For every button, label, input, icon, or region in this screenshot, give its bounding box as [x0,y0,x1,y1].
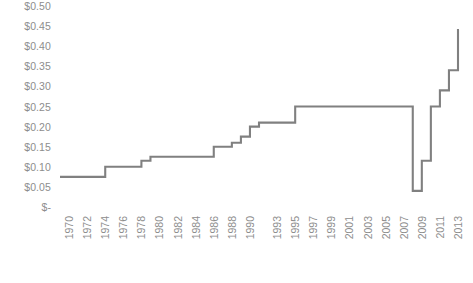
y-tick-label: $0.50 [24,1,51,12]
x-tick-label: 1999 [326,216,337,239]
x-tick-label: 1970 [64,216,75,239]
x-tick-label: 1980 [154,216,165,239]
plot-area [57,4,461,215]
x-tick-label: 1988 [227,216,238,239]
y-tick-label: $0.15 [24,141,51,152]
y-tick-label: $0.25 [24,101,51,112]
x-tick-label: 2009 [417,216,428,239]
x-tick-label: 1993 [272,216,283,239]
x-tick-label: 1972 [82,216,93,239]
x-tick-label: 2007 [399,216,410,239]
x-axis: 1970197219741976197819801982198419861988… [57,216,461,276]
x-tick-label: 2003 [363,216,374,239]
x-tick-label: 2011 [435,216,446,239]
x-tick-label: 1974 [100,216,111,239]
x-tick-label: 1986 [209,216,220,239]
x-tick-label: 1978 [136,216,147,239]
y-tick-label: $0.45 [24,21,51,32]
y-tick-label: $0.05 [24,182,51,193]
x-tick-label: 2013 [453,216,464,239]
x-tick-label: 1990 [245,216,256,239]
y-tick-label: $0.30 [24,81,51,92]
y-tick-label: $0.20 [24,121,51,132]
data-line-svg [57,4,461,215]
x-tick-label: 1982 [173,216,184,239]
y-tick-label: $0.35 [24,61,51,72]
y-tick-label: $- [41,202,51,213]
chart-container: $0.50$0.45$0.40$0.35$0.30$0.25$0.20$0.15… [0,0,473,283]
y-axis: $0.50$0.45$0.40$0.35$0.30$0.25$0.20$0.15… [0,0,57,225]
x-tick-label: 2005 [381,216,392,239]
x-tick-label: 1984 [191,216,202,239]
x-tick-label: 1976 [118,216,129,239]
x-tick-label: 1997 [308,216,319,239]
y-tick-label: $0.10 [24,162,51,173]
y-tick-label: $0.40 [24,41,51,52]
x-tick-label: 1995 [290,216,301,239]
x-tick-label: 2001 [344,216,355,239]
data-series-line [60,30,459,191]
